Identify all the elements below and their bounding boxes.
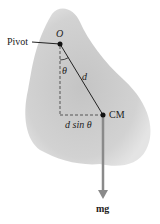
theta-label: θ <box>62 65 67 76</box>
cm-label: CM <box>109 109 125 120</box>
mg-label: mg <box>96 203 109 214</box>
pivot-point <box>58 42 63 47</box>
physical-pendulum-diagram: Pivot O θ d d sin θ CM mg <box>0 0 160 224</box>
diagram-svg: Pivot O θ d d sin θ CM mg <box>0 0 160 224</box>
pivot-label: Pivot <box>7 36 28 47</box>
dsin-label: d sin θ <box>65 119 92 130</box>
center-of-mass-point <box>101 113 106 118</box>
origin-label: O <box>56 28 63 39</box>
weight-arrow-head <box>98 190 108 199</box>
rigid-body-shape <box>25 8 150 165</box>
